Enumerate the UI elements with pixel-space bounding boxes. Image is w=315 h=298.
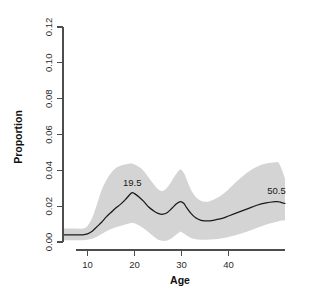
proportion-by-age-chart: 0.000.020.040.060.080.100.12 10203040 19… [0, 0, 315, 298]
y-axis-title: Proportion [12, 110, 24, 164]
x-axis-title: Age [170, 274, 190, 286]
x-tick-label: 40 [223, 259, 234, 270]
chart-figure: 0.000.020.040.060.080.100.12 10203040 19… [0, 0, 315, 298]
y-tick-label: 0.10 [43, 54, 54, 73]
x-tick-label: 30 [176, 259, 187, 270]
y-tick-label: 0.08 [43, 89, 54, 108]
chart-background [0, 0, 315, 298]
y-tick-label: 0.02 [43, 197, 54, 216]
peak-label-50-5: 50.5 [267, 185, 286, 196]
x-tick-label: 10 [82, 259, 93, 270]
y-tick-label: 0.12 [43, 18, 54, 37]
y-tick-label: 0.04 [43, 161, 54, 180]
x-tick-label: 20 [129, 259, 140, 270]
y-tick-label: 0.06 [43, 125, 54, 144]
peak-label-19-5: 19.5 [123, 177, 142, 188]
y-tick-label: 0.00 [43, 233, 54, 252]
